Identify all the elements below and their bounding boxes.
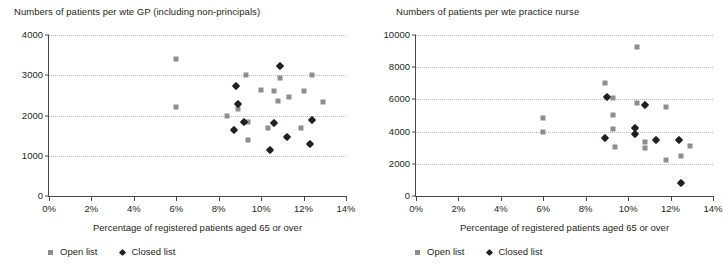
y-axis-tick-mark <box>412 35 416 36</box>
y-axis-tick-label: 2000 <box>22 111 43 121</box>
legend-entry-open-list: Open list <box>415 246 465 258</box>
legend-label-open-list: Open list <box>60 246 98 258</box>
data-point-open-list <box>541 129 546 134</box>
x-axis-tick-mark <box>304 196 305 201</box>
y-axis-tick-mark <box>412 99 416 100</box>
x-axis-tick-label: 14% <box>703 203 722 214</box>
gridline-horizontal <box>416 35 713 36</box>
x-axis-tick-label: 12% <box>294 203 313 214</box>
gridline-horizontal <box>49 75 346 76</box>
y-axis-tick-mark <box>412 131 416 132</box>
x-axis-tick-mark <box>219 196 220 201</box>
data-point-open-list <box>611 96 616 101</box>
x-axis-tick-mark <box>671 196 672 201</box>
x-axis-tick-mark <box>458 196 459 201</box>
data-point-open-list <box>174 57 179 62</box>
legend-label-open-list: Open list <box>427 246 465 258</box>
data-point-closed-list <box>265 146 273 154</box>
y-axis-tick-mark <box>45 155 49 156</box>
x-axis-tick-mark <box>91 196 92 201</box>
data-point-closed-list <box>270 118 278 126</box>
x-axis-tick-label: 0% <box>409 203 423 214</box>
x-axis-tick-mark <box>628 196 629 201</box>
legend-label-closed-list: Closed list <box>499 246 543 258</box>
x-axis-tick-mark <box>134 196 135 201</box>
data-point-open-list <box>265 125 270 130</box>
data-point-open-list <box>643 140 648 145</box>
x-axis-tick-label: 8% <box>579 203 593 214</box>
x-axis-tick-label: 2% <box>452 203 466 214</box>
y-axis-tick-label: 0 <box>405 191 410 201</box>
x-axis-tick-label: 12% <box>661 203 680 214</box>
y-axis-tick-label: 0 <box>38 191 43 201</box>
data-point-closed-list <box>308 115 316 123</box>
x-axis-tick-mark <box>586 196 587 201</box>
data-point-open-list <box>602 80 607 85</box>
data-point-closed-list <box>276 62 284 70</box>
data-point-closed-list <box>651 136 659 144</box>
y-axis-tick-label: 8000 <box>389 62 410 72</box>
data-point-open-list <box>301 88 306 93</box>
y-axis-tick-label: 3000 <box>22 70 43 80</box>
closed-list-diamond-icon <box>485 248 492 255</box>
data-point-open-list <box>611 127 616 132</box>
data-point-open-list <box>320 99 325 104</box>
x-axis-tick-label: 10% <box>252 203 271 214</box>
x-axis-tick-mark <box>346 196 347 201</box>
legend-nurse: Open list Closed list <box>415 246 564 258</box>
gridline-horizontal <box>416 99 713 100</box>
x-axis-tick-label: 8% <box>212 203 226 214</box>
data-point-open-list <box>174 105 179 110</box>
y-axis-tick-label: 10000 <box>384 30 410 40</box>
data-point-open-list <box>679 153 684 158</box>
y-axis-tick-label: 1000 <box>22 151 43 161</box>
x-axis-tick-mark <box>501 196 502 201</box>
data-point-closed-list <box>641 101 649 109</box>
data-point-open-list <box>259 88 264 93</box>
data-point-open-list <box>611 112 616 117</box>
open-list-square-icon <box>48 250 53 255</box>
x-axis-tick-mark <box>416 196 417 201</box>
data-point-closed-list <box>306 139 314 147</box>
data-point-open-list <box>664 157 669 162</box>
data-point-open-list <box>276 99 281 104</box>
data-point-open-list <box>643 146 648 151</box>
x-axis-title: Percentage of registered patients aged 6… <box>93 222 302 234</box>
y-axis-tick-label: 2000 <box>389 159 410 169</box>
data-point-closed-list <box>231 81 239 89</box>
chart-panel-nurse: Numbers of patients per wte practice nur… <box>362 0 723 280</box>
data-point-open-list <box>687 144 692 149</box>
plot-area-nurse: 02000400060008000100000%2%4%6%8%10%12%14… <box>415 35 713 197</box>
legend-gp: Open list Closed list <box>48 246 197 258</box>
x-axis-tick-mark <box>261 196 262 201</box>
gridline-horizontal <box>49 35 346 36</box>
y-axis-tick-mark <box>412 67 416 68</box>
data-point-closed-list <box>282 133 290 141</box>
legend-label-closed-list: Closed list <box>132 246 176 258</box>
gridline-horizontal <box>49 116 346 117</box>
y-axis-tick-mark <box>45 35 49 36</box>
x-axis-tick-label: 10% <box>619 203 638 214</box>
data-point-open-list <box>613 144 618 149</box>
x-axis-tick-mark <box>49 196 50 201</box>
data-point-closed-list <box>601 134 609 142</box>
gridline-horizontal <box>416 164 713 165</box>
chart-panel-gp: Numbers of patients per wte GP (includin… <box>0 0 361 280</box>
gridline-horizontal <box>416 132 713 133</box>
scatter-chart-figure: Numbers of patients per wte GP (includin… <box>0 0 723 280</box>
data-point-open-list <box>286 94 291 99</box>
legend-entry-closed-list: Closed list <box>487 246 543 258</box>
x-axis-title: Percentage of registered patients aged 6… <box>460 222 669 234</box>
y-axis-tick-mark <box>45 75 49 76</box>
data-point-open-list <box>634 101 639 106</box>
data-point-open-list <box>225 114 230 119</box>
legend-entry-closed-list: Closed list <box>120 246 176 258</box>
data-point-open-list <box>246 138 251 143</box>
y-axis-tick-label: 4000 <box>22 30 43 40</box>
y-axis-tick-mark <box>45 115 49 116</box>
data-point-closed-list <box>229 125 237 133</box>
data-point-open-list <box>278 76 283 81</box>
y-axis-tick-mark <box>412 163 416 164</box>
x-axis-tick-label: 14% <box>336 203 355 214</box>
data-point-open-list <box>541 116 546 121</box>
